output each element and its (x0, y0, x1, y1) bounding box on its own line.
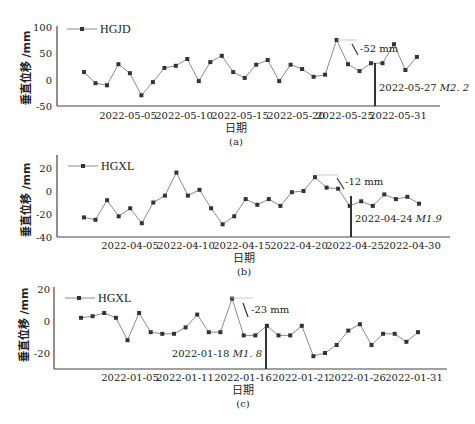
data-point-marker (149, 330, 153, 334)
y-axis-label: 垂直位移 /mm (19, 31, 33, 106)
y-tick: -50 (36, 101, 52, 112)
data-point-marker (336, 187, 340, 191)
x-ticks: 2022-05-05 2022-05-10 2022-05-15 2022-05… (99, 110, 427, 121)
data-point-marker (416, 330, 420, 334)
data-point-marker (230, 297, 234, 301)
data-point-marker (417, 202, 421, 206)
legend-marker-icon (77, 296, 81, 300)
data-point-marker (195, 313, 199, 317)
data-point-marker (243, 76, 247, 80)
figure: 垂直位移 /mm 100 50 0 -50 2022-05-05 2022-05… (0, 0, 475, 424)
data-point-marker (323, 73, 327, 77)
panel-caption: (b) (237, 266, 251, 277)
data-point-marker (278, 204, 282, 208)
data-point-marker (415, 55, 419, 59)
data-point-marker (163, 194, 167, 198)
y-ticks: 20 0 -20 (34, 284, 50, 359)
data-point-marker (198, 188, 202, 192)
data-point-marker (94, 81, 98, 85)
data-point-marker (174, 64, 178, 68)
data-point-marker (254, 63, 258, 67)
data-point-marker (323, 351, 327, 355)
data-point-marker (302, 189, 306, 193)
legend-label: HGXL (101, 159, 134, 173)
panel-c: 垂直位移 /mm 20 0 -20 2022-01-05 2022-01-11 … (17, 284, 447, 409)
data-point-marker (208, 60, 212, 64)
data-point-marker (242, 333, 246, 337)
data-point-marker (394, 197, 398, 201)
x-tick: 2022-05-15 (211, 110, 269, 121)
data-point-marker (289, 63, 293, 67)
x-tick: 2022-05-10 (155, 110, 213, 121)
data-point-marker (346, 62, 350, 66)
earthquake-label: 2022-01-18 M1. 8 (172, 348, 262, 359)
data-point-marker (139, 93, 143, 97)
legend-marker-icon (80, 27, 84, 31)
legend-marker-icon (81, 164, 85, 168)
data-point-marker (128, 206, 132, 210)
legend: HGXL (68, 159, 134, 173)
data-point-marker (140, 221, 144, 225)
data-point-marker (126, 338, 130, 342)
data-point-marker (404, 340, 408, 344)
data-point-marker (184, 325, 188, 329)
data-point-marker (313, 175, 317, 179)
y-axis-label: 垂直位移 /mm (19, 163, 33, 238)
data-point-marker (218, 330, 222, 334)
x-tick: 2022-05-25 (316, 110, 374, 121)
data-point-marker (311, 354, 315, 358)
y-tick: -40 (36, 232, 52, 243)
x-axis-label: 日期 (232, 384, 254, 397)
data-point-marker (197, 79, 201, 83)
data-point-marker (105, 198, 109, 202)
drop-arrow-icon (243, 303, 248, 317)
drop-annotation: -52 mm (360, 43, 399, 54)
drop-annotation: -12 mm (345, 176, 384, 187)
data-point-marker (162, 66, 166, 70)
data-point-marker (335, 343, 339, 347)
x-tick: 2022-05-05 (99, 110, 157, 121)
data-point-marker (244, 197, 248, 201)
data-point-marker (369, 61, 373, 65)
data-point-marker (160, 332, 164, 336)
data-point-marker (91, 314, 95, 318)
x-tick: 2022-04-15 (213, 240, 271, 251)
data-point-marker (94, 218, 98, 222)
data-point-marker (312, 75, 316, 79)
data-point-marker (151, 201, 155, 205)
panel-caption: (a) (229, 136, 243, 147)
data-point-marker (79, 316, 83, 320)
x-axis-label: 日期 (233, 252, 255, 265)
y-tick: 0 (46, 186, 52, 197)
data-point-marker (185, 57, 189, 61)
x-tick: 2022-04-30 (383, 240, 441, 251)
panel-caption: (c) (236, 398, 250, 409)
data-point-marker (172, 332, 176, 336)
data-point-marker (116, 62, 120, 66)
data-point-marker (102, 311, 106, 315)
data-point-marker (300, 67, 304, 71)
data-point-marker (325, 186, 329, 190)
data-point-marker (277, 333, 281, 337)
data-point-marker (267, 197, 271, 201)
data-point-marker (288, 333, 292, 337)
data-point-marker (82, 215, 86, 219)
data-point-marker (370, 343, 374, 347)
data-point-marker (117, 214, 121, 218)
legend-label: HGJD (100, 22, 131, 36)
data-point-marker (232, 214, 236, 218)
data-point-marker (358, 322, 362, 326)
y-axis-label: 垂直位移 /mm (17, 288, 31, 363)
data-point-marker (128, 71, 132, 75)
data-point-marker (114, 316, 118, 320)
panel-a: 垂直位移 /mm 100 50 0 -50 2022-05-05 2022-05… (19, 22, 469, 147)
data-point-marker (381, 61, 385, 65)
x-tick: 2022-01-16 (214, 372, 272, 383)
data-point-marker (151, 80, 155, 84)
y-tick: 100 (33, 22, 52, 33)
y-tick: 20 (37, 284, 50, 295)
data-point-marker (346, 329, 350, 333)
y-tick: -20 (34, 348, 50, 359)
data-point-marker (220, 54, 224, 58)
y-tick: -20 (36, 209, 52, 220)
